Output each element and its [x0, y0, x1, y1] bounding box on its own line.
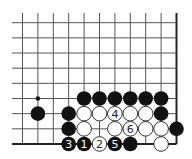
stone-body [138, 106, 153, 121]
stone-body [92, 106, 107, 121]
black-stone [108, 91, 123, 106]
go-diagram: 463125 [0, 0, 192, 159]
stone-body [154, 106, 169, 121]
stone-body [138, 122, 153, 137]
go-board: 463125 [0, 0, 192, 159]
white-stone-6: 6 [123, 122, 138, 137]
black-stone [123, 137, 138, 152]
black-stone [31, 106, 46, 121]
white-stone-4: 4 [108, 106, 123, 121]
stone-body [123, 91, 138, 106]
white-stone [108, 122, 123, 137]
move-number: 5 [111, 138, 118, 151]
stone-body [123, 106, 138, 121]
white-stone [123, 106, 138, 121]
stone-body [154, 91, 169, 106]
black-stone [154, 106, 169, 121]
stone-body [108, 122, 123, 137]
black-stone-3: 3 [61, 137, 76, 152]
move-number: 1 [81, 138, 88, 151]
stone-body [61, 106, 76, 121]
black-stone [154, 91, 169, 106]
white-stone [154, 137, 169, 152]
stone-body [154, 137, 169, 152]
move-number: 2 [96, 138, 103, 151]
black-stone [169, 122, 184, 137]
stone-body [169, 122, 184, 137]
white-stone [154, 122, 169, 137]
black-stone [61, 122, 76, 137]
move-number: 3 [65, 138, 72, 151]
white-stone [138, 122, 153, 137]
move-number: 4 [111, 108, 118, 121]
stone-body [77, 122, 92, 137]
white-stone [77, 122, 92, 137]
white-stone [138, 106, 153, 121]
white-stone-2: 2 [92, 137, 107, 152]
white-stone [77, 106, 92, 121]
stone-body [92, 91, 107, 106]
black-stone [77, 91, 92, 106]
stone-body [123, 137, 138, 152]
stone-body [61, 122, 76, 137]
black-stone [138, 91, 153, 106]
star-points [36, 96, 40, 100]
black-stone-5: 5 [108, 137, 123, 152]
stone-body [77, 106, 92, 121]
stone-body [138, 91, 153, 106]
stone-body [108, 91, 123, 106]
black-stone [61, 106, 76, 121]
black-stone [92, 91, 107, 106]
black-stone [123, 91, 138, 106]
stone-body [31, 106, 46, 121]
stone-body [77, 91, 92, 106]
stone-body [154, 122, 169, 137]
white-stone [92, 106, 107, 121]
black-stone-1: 1 [77, 137, 92, 152]
star-point [36, 96, 40, 100]
move-number: 6 [127, 123, 134, 136]
